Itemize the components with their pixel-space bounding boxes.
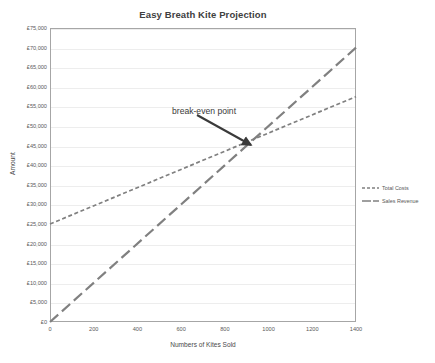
x-tick-label: 0 — [48, 326, 51, 332]
y-tick-label: £15,000 — [3, 260, 47, 266]
x-tick-label: 1200 — [306, 326, 318, 332]
legend-item-total-costs: Total Costs — [362, 182, 432, 193]
series-line — [50, 48, 356, 322]
line-chart: Easy Breath Kite Projection Amount £0£5,… — [0, 0, 435, 363]
y-tick-label: £40,000 — [3, 162, 47, 168]
breakeven-annotation-label: break-even point — [172, 106, 236, 116]
x-tick-label: 1000 — [262, 326, 274, 332]
x-tick-label: 800 — [220, 326, 229, 332]
y-tick-label: £55,000 — [3, 103, 47, 109]
y-tick-label: £50,000 — [3, 123, 47, 129]
x-tick-label: 400 — [133, 326, 142, 332]
breakeven-arrow — [197, 115, 251, 145]
y-tick-label: £45,000 — [3, 143, 47, 149]
x-tick-label: 600 — [176, 326, 185, 332]
y-tick-label: £10,000 — [3, 280, 47, 286]
x-axis-tick-labels: 0200400600800100012001400 — [50, 326, 356, 338]
legend-label-sales-revenue: Sales Revenue — [382, 198, 419, 204]
y-tick-label: £30,000 — [3, 201, 47, 207]
legend-item-sales-revenue: Sales Revenue — [362, 195, 432, 206]
legend-swatch-total-costs — [362, 185, 379, 191]
chart-title: Easy Breath Kite Projection — [50, 9, 356, 20]
y-tick-label: £35,000 — [3, 182, 47, 188]
series-paths — [50, 48, 356, 322]
legend-label-total-costs: Total Costs — [382, 185, 409, 191]
x-tick-label: 200 — [89, 326, 98, 332]
y-tick-label: £65,000 — [3, 64, 47, 70]
chart-legend: Total Costs Sales Revenue — [362, 182, 432, 208]
y-tick-label: £5,000 — [3, 299, 47, 305]
x-tick-label: 1400 — [350, 326, 362, 332]
y-tick-label: £70,000 — [3, 45, 47, 51]
x-axis-title: Numbers of Kites Sold — [50, 341, 356, 348]
y-tick-label: £20,000 — [3, 241, 47, 247]
y-axis-tick-labels: £0£5,000£10,000£15,000£20,000£25,000£30,… — [0, 28, 47, 322]
y-tick-label: £25,000 — [3, 221, 47, 227]
y-tick-label: £0 — [3, 319, 47, 325]
legend-swatch-sales-revenue — [362, 198, 379, 204]
y-tick-label: £60,000 — [3, 84, 47, 90]
series-layer — [50, 28, 356, 322]
y-tick-label: £75,000 — [3, 25, 47, 31]
